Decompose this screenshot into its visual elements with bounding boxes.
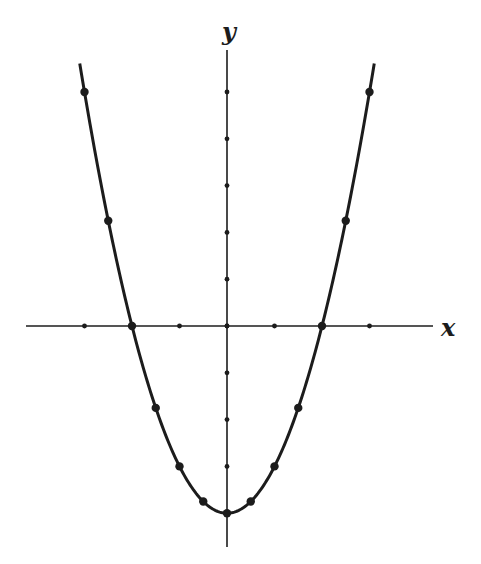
- y-axis: [225, 50, 230, 547]
- y-tick-mark: [225, 183, 230, 188]
- parabola-chart: x y: [0, 0, 481, 564]
- data-point: [128, 322, 136, 330]
- data-point: [270, 462, 278, 470]
- y-tick-mark: [225, 324, 230, 329]
- data-point: [175, 462, 183, 470]
- y-tick-mark: [225, 417, 230, 422]
- data-point: [223, 509, 231, 517]
- y-tick-mark: [225, 464, 230, 469]
- data-point: [104, 217, 112, 225]
- y-tick-mark: [225, 230, 230, 235]
- data-point: [152, 404, 160, 412]
- x-axis: [26, 324, 433, 329]
- y-tick-mark: [225, 136, 230, 141]
- data-point: [80, 88, 88, 96]
- x-axis-label: x: [440, 313, 456, 342]
- data-point: [199, 497, 207, 505]
- data-point: [318, 322, 326, 330]
- data-point: [294, 404, 302, 412]
- y-tick-mark: [225, 370, 230, 375]
- y-axis-label: y: [221, 17, 238, 46]
- x-tick-mark: [177, 324, 182, 329]
- data-point: [365, 88, 373, 96]
- x-tick-mark: [82, 324, 87, 329]
- x-tick-mark: [367, 324, 372, 329]
- y-tick-mark: [225, 90, 230, 95]
- data-point: [247, 497, 255, 505]
- data-point: [342, 217, 350, 225]
- x-tick-mark: [272, 324, 277, 329]
- y-tick-mark: [225, 277, 230, 282]
